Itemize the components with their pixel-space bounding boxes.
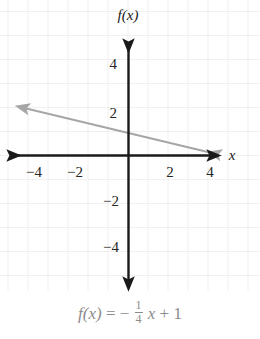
equation-equals: = (106, 305, 116, 322)
equation-denominator: 4 (135, 313, 143, 326)
grid-lines (0, 1, 260, 292)
equation-lhs: f(x) (78, 305, 102, 322)
equation-variable: x (148, 305, 156, 322)
equation-caption: f(x) = − 1 4 x + 1 (0, 300, 260, 326)
equation-sign: − (120, 305, 130, 322)
y-tick-label-2: 2 (110, 105, 118, 121)
x-tick-label-neg4: −4 (26, 164, 42, 180)
equation-fraction: 1 4 (135, 299, 143, 325)
x-tick-label-4: 4 (206, 164, 214, 180)
graph-figure: f(x) x −4 −2 2 4 4 2 −2 −4 f(x) = − 1 4 … (0, 0, 260, 339)
x-tick-label-neg2: −2 (67, 164, 83, 180)
function-line (22, 108, 214, 154)
equation-constant: 1 (173, 305, 182, 322)
equation-numerator: 1 (135, 299, 143, 313)
coordinate-plane: f(x) x −4 −2 2 4 4 2 −2 −4 (0, 0, 260, 339)
y-tick-label-4: 4 (110, 56, 118, 72)
y-tick-label-neg2: −2 (103, 193, 119, 209)
y-axis-label: f(x) (118, 7, 139, 24)
x-axis-label: x (228, 147, 236, 163)
equation-plus: + (160, 305, 170, 322)
y-tick-label-neg4: −4 (103, 239, 119, 255)
x-tick-label-2: 2 (166, 164, 174, 180)
